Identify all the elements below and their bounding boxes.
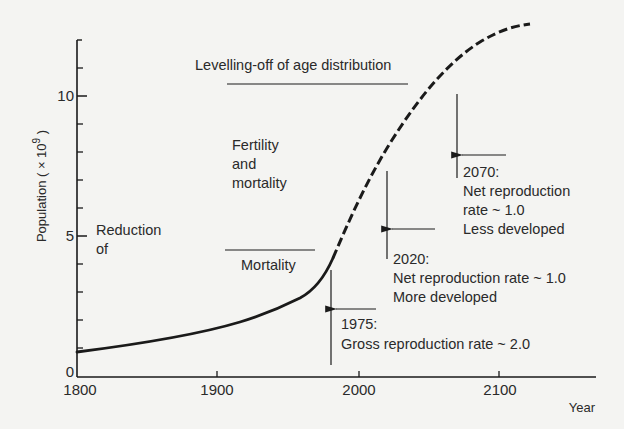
x-tick-label-2100: 2100 <box>483 381 516 398</box>
x-ticks <box>217 371 499 377</box>
y-minor-ticks <box>77 68 83 348</box>
x-tick-label-2000: 2000 <box>342 381 375 398</box>
y-axis-title: Population ( × 109 ) <box>31 130 49 242</box>
y-tick-label-10: 10 <box>57 87 74 104</box>
marker-1975-label: 1975: Gross reproduction rate ~ 2.0 <box>341 316 530 352</box>
x-tick-label-1800: 1800 <box>63 381 96 398</box>
x-tick-label-1900: 1900 <box>200 381 233 398</box>
levelling-label: Levelling-off of age distribution <box>195 57 391 73</box>
y-axis: 10 5 0 Population ( × 109 ) <box>31 40 87 380</box>
marker-2070-label: 2070: Net reproduction rate ~ 1.0 Less d… <box>463 164 574 237</box>
fertility-label: Fertility and mortality <box>232 137 288 191</box>
mortality-label: Mortality <box>241 257 297 273</box>
y-major-ticks <box>77 96 87 236</box>
marker-2020-label: 2020: Net reproduction rate ~ 1.0 More d… <box>393 251 570 305</box>
y-tick-label-5: 5 <box>66 227 74 244</box>
marker-2070: 2070: Net reproduction rate ~ 1.0 Less d… <box>457 94 574 237</box>
x-axis-title: Year <box>569 400 596 415</box>
population-chart: 10 5 0 Population ( × 109 ) 1800 1900 20… <box>0 0 624 429</box>
y-tick-label-0: 0 <box>66 363 74 380</box>
x-axis: 1800 1900 2000 2100 Year <box>63 371 596 415</box>
reduction-label: Reduction of <box>96 222 165 257</box>
